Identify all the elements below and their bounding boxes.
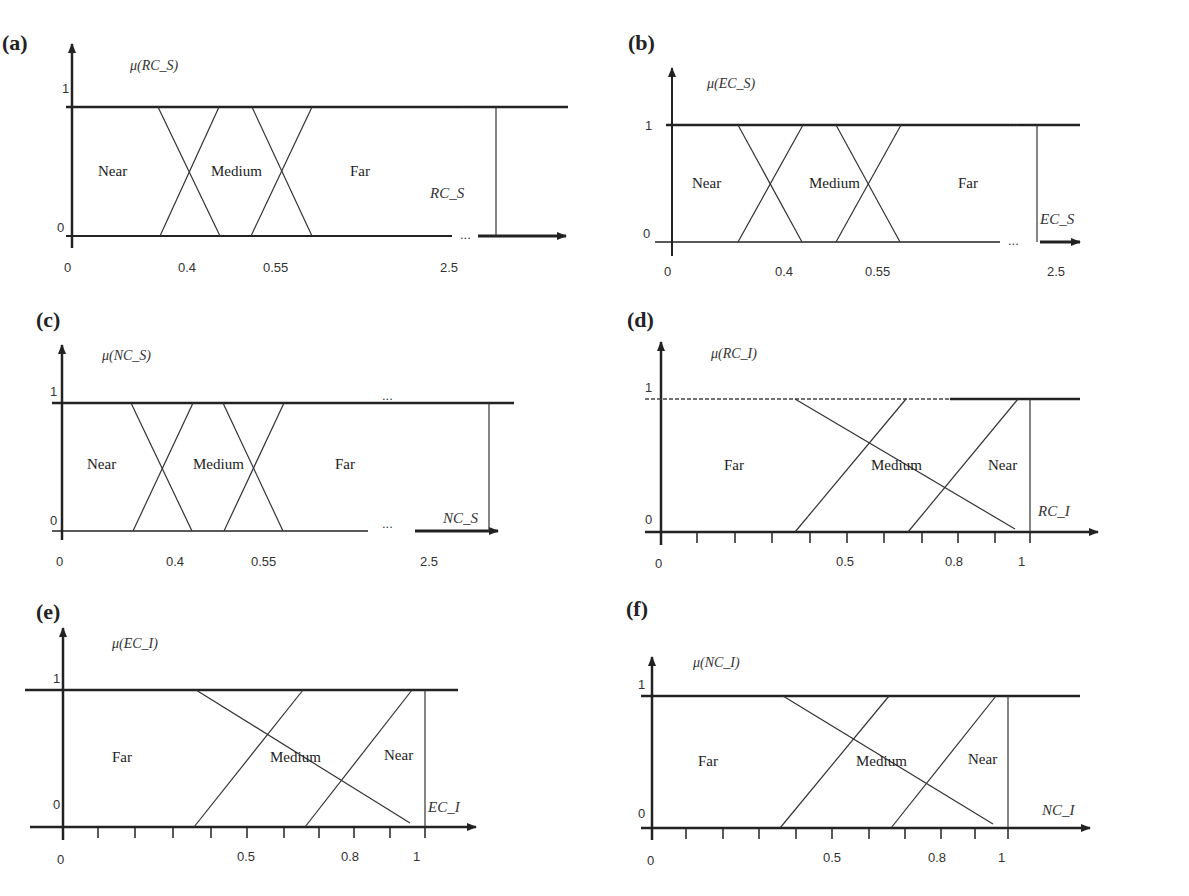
y-axis-label: μ(EC_S) xyxy=(706,76,756,92)
x-tick-0: 0 xyxy=(647,853,654,868)
membership-function-figure: (a) μ(RC_S) 1 0 ... ... Near Medium Far … xyxy=(0,0,1189,896)
y-tick-1: 1 xyxy=(645,380,652,395)
x-variable-label: RC_I xyxy=(1037,503,1071,519)
panel-e: (e) μ(EC_I) 1 0 Far Medium Near EC_I 0 0… xyxy=(25,599,476,867)
y-axis-label: μ(NC_S) xyxy=(101,348,151,364)
x-tick-0-5: 0.5 xyxy=(237,849,255,864)
x-axis-minor-ticks xyxy=(686,828,1008,839)
top-break-ellipsis: ... xyxy=(1008,114,1019,129)
set-label-far: Far xyxy=(958,175,978,191)
x-tick-0-5: 0.5 xyxy=(836,554,854,569)
x-tick-0-8: 0.8 xyxy=(341,849,359,864)
x-tick-0-5: 0.5 xyxy=(823,850,841,865)
set-label-medium: Medium xyxy=(871,457,922,473)
set-label-near: Near xyxy=(384,747,413,763)
y-tick-0: 0 xyxy=(57,220,64,235)
x-variable-label: EC_S xyxy=(1039,211,1075,227)
set-label-near: Near xyxy=(87,456,116,472)
panel-f: (f) μ(NC_I) 1 0 Far Medium Near NC_I 0 0… xyxy=(626,596,1090,868)
set-label-far: Far xyxy=(698,753,718,769)
set-label-medium: Medium xyxy=(211,163,262,179)
top-break-ellipsis: ... xyxy=(382,388,393,403)
panel-a: (a) μ(RC_S) 1 0 ... ... Near Medium Far … xyxy=(2,30,568,275)
set-label-far: Far xyxy=(724,457,744,473)
x-tick-0-55: 0.55 xyxy=(865,264,890,279)
x-variable-label: RC_S xyxy=(429,185,465,201)
axis-break-ellipsis: ... xyxy=(460,227,471,242)
x-tick-0-8: 0.8 xyxy=(945,554,963,569)
set-label-near: Near xyxy=(98,163,127,179)
x-tick-0-8: 0.8 xyxy=(928,850,946,865)
x-tick-2-5: 2.5 xyxy=(420,554,438,569)
y-tick-1: 1 xyxy=(638,677,645,692)
y-axis-label: μ(RC_I) xyxy=(710,346,757,362)
panel-label: (c) xyxy=(36,307,60,332)
panel-label: (f) xyxy=(626,596,648,621)
set-label-medium: Medium xyxy=(809,175,860,191)
y-tick-1: 1 xyxy=(645,118,652,133)
panel-c: (c) μ(NC_S) 1 0 ... ... Near Medium Far … xyxy=(36,307,514,569)
set-label-far: Far xyxy=(112,749,132,765)
y-tick-0: 0 xyxy=(53,797,60,812)
y-axis-label: μ(EC_I) xyxy=(111,636,158,652)
set-label-medium: Medium xyxy=(193,456,244,472)
x-tick-1: 1 xyxy=(998,850,1005,865)
x-variable-label: NC_I xyxy=(1041,802,1076,818)
panel-label: (d) xyxy=(627,307,654,332)
x-tick-0: 0 xyxy=(57,852,64,867)
x-axis-minor-ticks xyxy=(98,827,425,838)
axis-break-ellipsis: ... xyxy=(1008,233,1019,248)
y-tick-1: 1 xyxy=(62,81,69,96)
set-label-medium: Medium xyxy=(856,753,907,769)
y-axis-label: μ(NC_I) xyxy=(692,655,740,671)
set-label-medium: Medium xyxy=(270,749,321,765)
x-tick-1: 1 xyxy=(413,849,420,864)
panel-d: (d) μ(RC_I) 1 0 Far Medium Near RC_I 0 0… xyxy=(627,307,1098,571)
y-tick-1: 1 xyxy=(53,671,60,686)
y-tick-0: 0 xyxy=(638,806,645,821)
x-tick-0-55: 0.55 xyxy=(263,260,288,275)
x-tick-0: 0 xyxy=(56,554,63,569)
top-break-ellipsis: ... xyxy=(462,96,473,111)
x-tick-2-5: 2.5 xyxy=(1047,264,1065,279)
x-variable-label: EC_I xyxy=(427,799,461,815)
set-label-far: Far xyxy=(350,163,370,179)
y-tick-0: 0 xyxy=(50,513,57,528)
x-tick-0-4: 0.4 xyxy=(775,264,793,279)
panel-label: (b) xyxy=(628,30,655,55)
near-falling-edge xyxy=(131,403,192,531)
y-tick-0: 0 xyxy=(645,512,652,527)
x-tick-0-4: 0.4 xyxy=(178,260,196,275)
x-variable-label: NC_S xyxy=(442,510,479,526)
x-tick-0-4: 0.4 xyxy=(166,554,184,569)
set-label-near: Near xyxy=(968,751,997,767)
x-tick-0: 0 xyxy=(64,260,71,275)
x-tick-0: 0 xyxy=(655,556,662,571)
axis-break-ellipsis: ... xyxy=(382,516,393,531)
x-tick-0-55: 0.55 xyxy=(251,554,276,569)
y-tick-1: 1 xyxy=(50,384,57,399)
x-tick-1: 1 xyxy=(1018,554,1025,569)
set-label-near: Near xyxy=(988,457,1017,473)
set-label-near: Near xyxy=(692,175,721,191)
y-tick-0: 0 xyxy=(643,226,650,241)
medium-rising-edge xyxy=(133,403,193,531)
y-axis-label: μ(RC_S) xyxy=(129,58,179,74)
x-axis-minor-ticks xyxy=(697,532,1030,543)
x-tick-2-5: 2.5 xyxy=(440,260,458,275)
set-label-far: Far xyxy=(335,456,355,472)
panel-label: (e) xyxy=(36,599,60,624)
panel-label: (a) xyxy=(2,30,28,55)
x-tick-0: 0 xyxy=(664,264,671,279)
panel-b: (b) μ(EC_S) 1 0 ... ... Near Medium Far … xyxy=(628,30,1080,279)
